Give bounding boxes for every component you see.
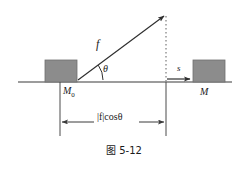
- figure-caption: 图 5-12: [0, 146, 248, 156]
- displacement-vector-label: s: [177, 64, 181, 73]
- physics-figure-5-12: f θ s M0 M |f|cosθ 图 5-12: [0, 0, 248, 170]
- force-vector-arrow: [78, 16, 164, 80]
- projection-length-label: |f|cosθ: [97, 112, 122, 122]
- block-right-label: M: [200, 87, 208, 97]
- angle-theta-label: θ: [103, 64, 108, 74]
- block-left-label-subscript: 0: [71, 91, 75, 99]
- block-left-m0: [45, 60, 77, 82]
- block-left-label: M0: [63, 86, 75, 99]
- block-right-m: [193, 60, 225, 82]
- force-vector-label: f: [96, 38, 99, 50]
